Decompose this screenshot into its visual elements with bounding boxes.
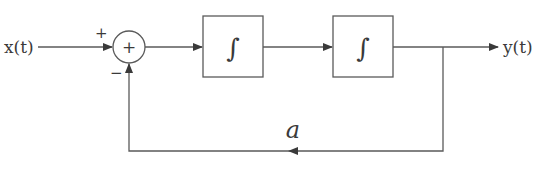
integral-icon: ∫ <box>356 33 370 63</box>
feedback-gain-label: a <box>286 116 300 144</box>
feedback-direction-arrow <box>288 147 298 155</box>
block-diagram: x(t) + + − ∫ ∫ y(t) a <box>0 0 548 169</box>
plus-sign-label: + <box>95 24 108 42</box>
minus-sign-label: − <box>110 64 123 82</box>
summing-junction: + <box>113 31 145 63</box>
diagram-svg: x(t) + + − ∫ ∫ y(t) a <box>0 0 548 169</box>
input-label: x(t) <box>4 37 34 57</box>
integral-icon: ∫ <box>226 33 240 63</box>
integrator-block-1: ∫ <box>203 16 263 77</box>
summer-symbol: + <box>122 37 136 57</box>
integrator-block-2: ∫ <box>333 16 393 77</box>
output-label: y(t) <box>502 37 533 57</box>
